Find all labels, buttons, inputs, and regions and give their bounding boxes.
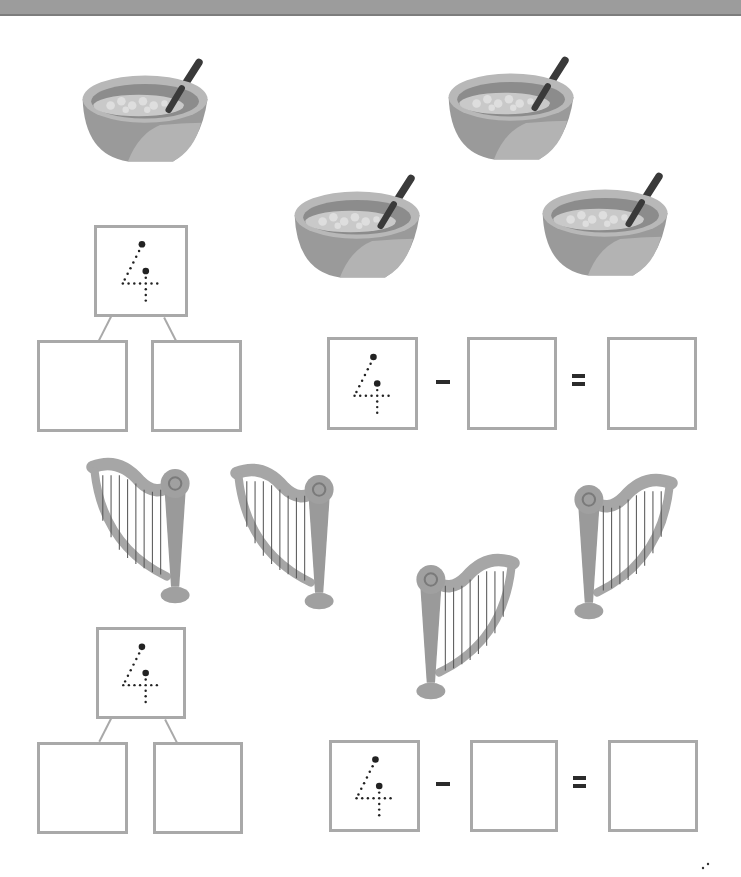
difference-box[interactable]: [607, 337, 697, 430]
harp-image: [222, 456, 346, 616]
harp-image: [404, 546, 528, 706]
minuend-box: [327, 337, 418, 430]
bond-connector: [98, 718, 112, 742]
bowl-image: [440, 54, 580, 166]
dotted-four-tracing: [332, 743, 417, 829]
bowl-image: [534, 170, 674, 282]
bond-part-b-box[interactable]: [153, 742, 243, 834]
minus-sign: [436, 782, 450, 786]
minus-sign: [436, 380, 450, 384]
equals-sign-top: [573, 776, 586, 780]
dotted-four-tracing: [330, 340, 415, 427]
bond-whole-box: [94, 225, 188, 317]
corner-dots-decoration: [701, 861, 711, 871]
equals-sign-top: [572, 374, 585, 378]
bowl-image: [74, 56, 214, 168]
dotted-four-tracing: [97, 228, 185, 314]
bond-connector: [163, 317, 177, 342]
equals-sign-bottom: [572, 382, 585, 386]
minuend-box: [329, 740, 420, 832]
harp-image: [78, 450, 202, 610]
subtrahend-box[interactable]: [467, 337, 557, 430]
difference-box[interactable]: [608, 740, 698, 832]
bowl-image: [286, 172, 426, 284]
bond-part-a-box[interactable]: [37, 742, 128, 834]
harp-image: [562, 466, 686, 626]
bond-part-b-box[interactable]: [151, 340, 242, 432]
dotted-four-tracing: [99, 630, 183, 716]
subtrahend-box[interactable]: [470, 740, 558, 832]
bond-part-a-box[interactable]: [37, 340, 128, 432]
bond-whole-box: [96, 627, 186, 719]
bond-connector: [98, 316, 112, 341]
equals-sign-bottom: [573, 784, 586, 788]
bond-connector: [164, 719, 178, 743]
header-bar: [0, 0, 741, 16]
